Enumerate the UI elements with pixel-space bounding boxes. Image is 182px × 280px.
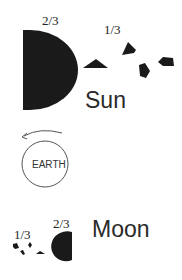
sun-label: Sun bbox=[85, 87, 126, 114]
sun-main-body bbox=[23, 30, 78, 110]
sun-fragment-pentagon bbox=[139, 63, 150, 78]
sun-fragment-triangle-small bbox=[122, 42, 136, 55]
sun-fragment-quad bbox=[158, 57, 174, 66]
sun-main-fraction-label: 2/3 bbox=[42, 13, 59, 29]
moon-fragments-fraction-label: 1/3 bbox=[14, 227, 31, 243]
sun-fragment-triangle-large bbox=[83, 59, 108, 68]
moon-fragment-3 bbox=[20, 250, 25, 255]
moon-fragment-1 bbox=[13, 243, 19, 249]
sun-fragments-fraction-label: 1/3 bbox=[104, 22, 121, 38]
moon-label: Moon bbox=[92, 216, 150, 243]
orbit-arrow-icon bbox=[24, 131, 62, 136]
earth-label: EARTH bbox=[32, 159, 66, 170]
moon-fragment-triangle bbox=[36, 251, 45, 254]
moon-main-fraction-label: 2/3 bbox=[53, 216, 70, 232]
